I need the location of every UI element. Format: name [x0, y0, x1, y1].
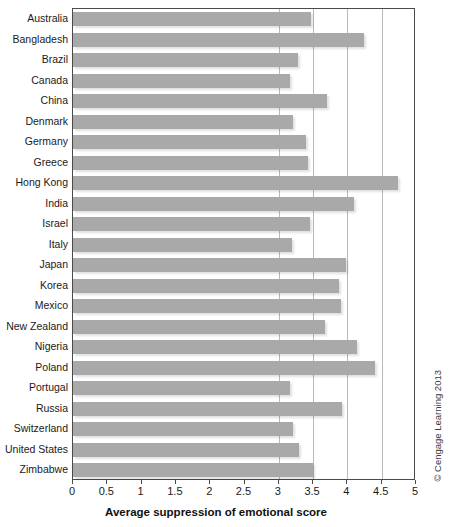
x-tick-mark: [244, 480, 245, 484]
x-tick-label-1-5: 1.5: [167, 485, 182, 497]
y-label-greece: Greece: [34, 152, 68, 173]
bar-row: [73, 112, 414, 133]
bar-zimbabwe: [73, 463, 313, 477]
bar-row: [73, 235, 414, 256]
y-label-germany: Germany: [25, 131, 68, 152]
x-tick-mark: [106, 480, 107, 484]
x-tick-label-2-5: 2.5: [236, 485, 251, 497]
x-tick-label-5: 5: [412, 485, 418, 497]
y-label-canada: Canada: [31, 70, 68, 91]
bar-denmark: [73, 115, 293, 129]
bar-india: [73, 197, 354, 211]
bar-germany: [73, 135, 306, 149]
x-tick-mark: [381, 480, 382, 484]
bar-row: [73, 173, 414, 194]
y-label-poland: Poland: [35, 357, 68, 378]
y-label-mexico: Mexico: [35, 295, 68, 316]
x-tick-label-0: 0: [69, 485, 75, 497]
y-label-nigeria: Nigeria: [35, 336, 68, 357]
bar-row: [73, 317, 414, 338]
y-label-denmark: Denmark: [25, 111, 68, 132]
x-tick-mark: [312, 480, 313, 484]
y-label-switzerland: Switzerland: [14, 418, 68, 439]
bar-israel: [73, 217, 310, 231]
bar-chart: AustraliaBangladeshBrazilCanadaChinaDenm…: [0, 0, 463, 527]
bar-russia: [73, 402, 342, 416]
bar-row: [73, 50, 414, 71]
bar-greece: [73, 156, 308, 170]
y-label-russia: Russia: [36, 398, 68, 419]
bar-row: [73, 214, 414, 235]
bar-row: [73, 378, 414, 399]
y-label-israel: Israel: [42, 213, 68, 234]
x-tick-label-4-5: 4.5: [373, 485, 388, 497]
bar-poland: [73, 361, 375, 375]
copyright-credit: © Cengage Learning 2013: [432, 370, 443, 482]
bar-australia: [73, 12, 311, 26]
bar-united-states: [73, 443, 299, 457]
bar-brazil: [73, 53, 298, 67]
bar-row: [73, 132, 414, 153]
y-label-new-zealand: New Zealand: [6, 316, 68, 337]
bar-row: [73, 194, 414, 215]
x-tick-label-2: 2: [206, 485, 212, 497]
y-label-korea: Korea: [40, 275, 68, 296]
y-label-japan: Japan: [39, 254, 68, 275]
bar-row: [73, 399, 414, 420]
bar-japan: [73, 258, 346, 272]
bar-row: [73, 358, 414, 379]
x-tick-label-4: 4: [343, 485, 349, 497]
x-axis-title: Average suppression of emotional score: [0, 506, 432, 518]
y-label-china: China: [41, 90, 68, 111]
x-tick-label-3: 3: [275, 485, 281, 497]
bar-switzerland: [73, 422, 293, 436]
y-label-brazil: Brazil: [42, 49, 68, 70]
x-tick-mark: [72, 480, 73, 484]
x-tick-mark: [175, 480, 176, 484]
bar-row: [73, 9, 414, 30]
y-label-portugal: Portugal: [29, 377, 68, 398]
x-axis-ticks: 00.511.522.533.544.55: [0, 480, 463, 504]
bar-mexico: [73, 299, 341, 313]
y-label-australia: Australia: [27, 8, 68, 29]
bar-row: [73, 71, 414, 92]
bar-canada: [73, 74, 290, 88]
bar-row: [73, 460, 414, 481]
y-label-italy: Italy: [49, 234, 68, 255]
bar-korea: [73, 279, 339, 293]
plot-area: [72, 8, 415, 480]
bar-nigeria: [73, 340, 357, 354]
y-label-india: India: [45, 193, 68, 214]
bar-row: [73, 337, 414, 358]
x-tick-label-0-5: 0.5: [99, 485, 114, 497]
bar-china: [73, 94, 327, 108]
x-tick-label-1: 1: [138, 485, 144, 497]
x-tick-mark: [141, 480, 142, 484]
y-label-zimbabwe: Zimbabwe: [20, 459, 68, 480]
x-tick-mark: [415, 480, 416, 484]
bar-hong-kong: [73, 176, 398, 190]
bar-row: [73, 30, 414, 51]
y-label-bangladesh: Bangladesh: [13, 29, 68, 50]
x-tick-mark: [278, 480, 279, 484]
bar-row: [73, 296, 414, 317]
bar-row: [73, 419, 414, 440]
x-tick-mark: [209, 480, 210, 484]
bars-layer: [73, 9, 414, 479]
x-tick-mark: [346, 480, 347, 484]
bar-new-zealand: [73, 320, 325, 334]
x-tick-label-3-5: 3.5: [304, 485, 319, 497]
bar-row: [73, 440, 414, 461]
y-label-hong-kong: Hong Kong: [15, 172, 68, 193]
bar-italy: [73, 238, 292, 252]
y-label-united-states: United States: [5, 439, 68, 460]
bar-bangladesh: [73, 33, 364, 47]
bar-row: [73, 153, 414, 174]
bar-portugal: [73, 381, 290, 395]
bar-row: [73, 255, 414, 276]
bar-row: [73, 276, 414, 297]
y-axis-category-labels: AustraliaBangladeshBrazilCanadaChinaDenm…: [0, 8, 68, 480]
bar-row: [73, 91, 414, 112]
